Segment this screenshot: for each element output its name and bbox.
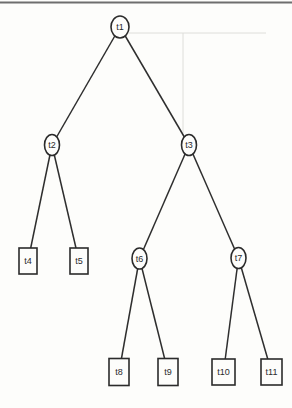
tree-node-t5: t5 bbox=[70, 248, 88, 274]
tree-diagram: t1t2t3t4t5t6t7t8t9t10t11 bbox=[0, 0, 292, 408]
tree-edge-t7-t10 bbox=[224, 258, 239, 372]
tree-edge-t7-t11 bbox=[239, 258, 272, 372]
tree-edge-t2-t4 bbox=[28, 145, 52, 261]
node-label-t2: t2 bbox=[48, 140, 56, 150]
tree-node-t9: t9 bbox=[158, 359, 178, 386]
node-label-t3: t3 bbox=[185, 140, 193, 150]
tree-node-t11: t11 bbox=[261, 359, 282, 385]
tree-node-t6: t6 bbox=[132, 248, 147, 269]
node-label-t6: t6 bbox=[136, 254, 144, 264]
tree-node-t1: t1 bbox=[111, 16, 129, 38]
node-label-t4: t4 bbox=[24, 256, 32, 266]
tree-edges bbox=[28, 27, 272, 372]
tree-edge-t3-t6 bbox=[140, 145, 190, 259]
scanned-page: t1t2t3t4t5t6t7t8t9t10t11 bbox=[0, 0, 292, 408]
tree-edge-t1-t3 bbox=[120, 27, 189, 145]
tree-node-t4: t4 bbox=[19, 248, 37, 274]
node-label-t5: t5 bbox=[75, 256, 83, 266]
node-label-t9: t9 bbox=[164, 367, 172, 377]
tree-node-t2: t2 bbox=[45, 135, 60, 156]
tree-edge-t6-t8 bbox=[119, 259, 140, 373]
node-label-t11: t11 bbox=[266, 367, 278, 377]
tree-node-t3: t3 bbox=[182, 135, 197, 156]
tree-edge-t6-t9 bbox=[140, 259, 169, 373]
tree-edge-t3-t7 bbox=[189, 145, 239, 258]
tree-edge-t2-t5 bbox=[52, 145, 79, 261]
node-label-t8: t8 bbox=[115, 367, 123, 377]
tree-edge-t1-t2 bbox=[52, 27, 120, 145]
node-label-t10: t10 bbox=[217, 367, 230, 377]
tree-node-t8: t8 bbox=[109, 359, 129, 386]
node-label-t7: t7 bbox=[235, 253, 243, 263]
tree-node-t7: t7 bbox=[231, 248, 246, 269]
node-label-t1: t1 bbox=[116, 22, 124, 32]
tree-node-t10: t10 bbox=[212, 359, 235, 385]
tree-nodes: t1t2t3t4t5t6t7t8t9t10t11 bbox=[19, 16, 282, 386]
